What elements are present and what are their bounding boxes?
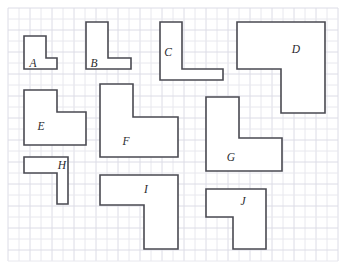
shape-h[interactable]: H <box>24 157 68 204</box>
shape-f-label: F <box>121 135 130 147</box>
shape-e-outline[interactable] <box>24 90 86 145</box>
shape-d-label: D <box>291 43 301 55</box>
shapes-layer: ABCDEFGHIJ <box>0 0 349 272</box>
shape-f[interactable]: F <box>100 84 178 157</box>
shape-i-outline[interactable] <box>100 175 178 249</box>
shape-g-label: G <box>227 151 236 163</box>
shape-c-label: C <box>164 46 172 58</box>
shape-e-label: E <box>36 120 44 132</box>
shape-j-outline[interactable] <box>206 189 266 249</box>
shape-b[interactable]: B <box>86 22 131 69</box>
shape-f-outline[interactable] <box>100 84 178 157</box>
shape-i[interactable]: I <box>100 175 178 249</box>
shape-h-label: H <box>57 159 67 171</box>
shape-a[interactable]: A <box>24 36 57 69</box>
shape-b-label: B <box>90 57 97 69</box>
shape-g-outline[interactable] <box>206 97 282 171</box>
shape-d[interactable]: D <box>237 22 325 113</box>
worksheet-canvas: ABCDEFGHIJ <box>0 0 349 272</box>
shape-g[interactable]: G <box>206 97 282 171</box>
shape-j[interactable]: J <box>206 189 266 249</box>
shape-c[interactable]: C <box>160 22 223 80</box>
shape-d-outline[interactable] <box>237 22 325 113</box>
shape-a-label: A <box>28 57 37 69</box>
shape-j-label: J <box>240 195 246 207</box>
shape-e[interactable]: E <box>24 90 86 145</box>
